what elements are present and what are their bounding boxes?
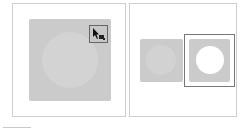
select-cursor-icon[interactable] bbox=[89, 25, 108, 43]
after-panel bbox=[129, 3, 237, 117]
before-panel bbox=[12, 3, 126, 117]
square-with-hole bbox=[189, 39, 230, 82]
selected-result-shape[interactable] bbox=[184, 34, 235, 87]
circle-shape bbox=[146, 45, 176, 75]
original-shape bbox=[140, 39, 183, 82]
divider bbox=[3, 127, 31, 128]
circular-hole bbox=[196, 46, 224, 74]
gray-square-shape bbox=[29, 19, 111, 101]
